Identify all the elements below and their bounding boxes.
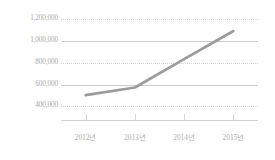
x-axis-label-2014: 2014년: [161, 134, 207, 141]
line-chart: 1,200,000 1,000,000 800,000 600,000 400,…: [0, 0, 275, 160]
x-axis-label-2013: 2013년: [112, 134, 158, 141]
data-series-line: [86, 31, 234, 95]
x-axis-label-2015: 2015년: [210, 134, 256, 141]
x-axis-label-2012: 2012년: [63, 134, 109, 141]
